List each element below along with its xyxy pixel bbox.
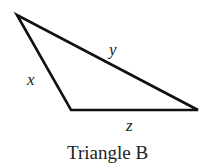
side-label-x: x bbox=[26, 70, 35, 89]
side-label-z: z bbox=[125, 116, 133, 135]
side-label-y: y bbox=[107, 40, 117, 59]
triangle-diagram: y x z Triangle B bbox=[0, 0, 209, 165]
diagram-caption: Triangle B bbox=[67, 142, 148, 163]
triangle-b-shape bbox=[17, 15, 198, 110]
